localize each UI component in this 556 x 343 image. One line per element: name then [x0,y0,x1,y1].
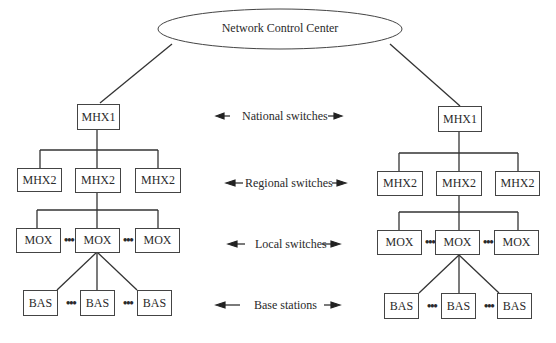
left-bas-2: BAS [80,290,115,316]
left-mhx2-1: MHX2 [17,168,62,192]
network-control-center: Network Control Center [200,21,360,36]
ellipsis-dots: ••• [427,301,437,311]
right-bas-1: BAS [384,293,419,319]
right-bas-3: BAS [497,293,532,319]
left-bas-3: BAS [137,290,172,316]
ellipsis-dots: ••• [123,235,133,245]
right-mhx2-3: MHX2 [495,171,540,196]
level-label-regional: Regional switches [245,176,333,191]
level-label-national: National switches [242,109,328,124]
right-bas-2: BAS [441,293,476,319]
left-mox-1: MOX [16,228,61,253]
right-mox-3: MOX [494,230,539,255]
left-mhx2-3: MHX2 [135,168,181,193]
ellipsis-dots: ••• [484,301,494,311]
left-mhx1: MHX1 [77,104,120,130]
right-mox-2: MOX [435,230,480,255]
left-bas-1: BAS [23,290,58,316]
level-label-local: Local switches [255,237,327,252]
right-mhx2-2: MHX2 [436,171,482,196]
ellipsis-dots: ••• [123,298,133,308]
ellipsis-dots: ••• [64,235,74,245]
ellipsis-dots: ••• [66,298,76,308]
left-mhx2-2: MHX2 [75,168,121,193]
left-mox-3: MOX [135,228,180,253]
right-mox-1: MOX [377,230,422,255]
ellipsis-dots: ••• [483,237,493,247]
right-mhx1: MHX1 [438,106,482,132]
ellipsis-dots: ••• [425,237,435,247]
left-mox-2: MOX [75,228,120,253]
level-label-base: Base stations [254,298,317,313]
right-mhx2-1: MHX2 [377,171,423,196]
